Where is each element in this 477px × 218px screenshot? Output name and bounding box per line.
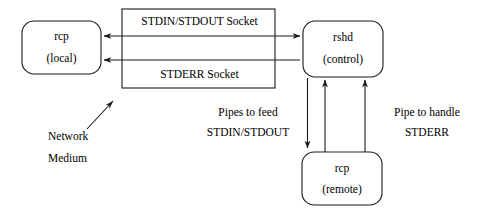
node-rshd-control: rshd (control) (303, 21, 383, 77)
node-rcp-remote: rcp (remote) (302, 152, 382, 205)
node-rcp-remote-line1: rcp (335, 162, 350, 175)
annotation-network-medium: Network Medium (48, 130, 88, 164)
annotation-pipes-feed-line2: STDIN/STDOUT (207, 126, 289, 138)
node-rshd-control-line2: (control) (323, 53, 363, 66)
annotation-pipe-stderr-line1: Pipe to handle (394, 106, 460, 119)
diagram-svg: STDIN/STDOUT Socket STDERR Socket rcp (l… (0, 0, 477, 218)
socket-box-top-label: STDIN/STDOUT Socket (141, 15, 258, 27)
node-rcp-remote-shape (302, 152, 382, 205)
annotation-pipes-feed: Pipes to feed STDIN/STDOUT (207, 106, 289, 138)
annotation-pipe-stderr: Pipe to handle STDERR (394, 106, 460, 138)
socket-box-bottom-label: STDERR Socket (160, 68, 239, 80)
node-rcp-local-line1: rcp (54, 30, 69, 43)
annotation-network-medium-line2: Medium (48, 152, 87, 164)
annotation-pipes-feed-line1: Pipes to feed (218, 106, 278, 119)
annotation-pipe-stderr-line2: STDERR (405, 126, 449, 138)
node-rcp-local-line2: (local) (46, 52, 76, 65)
node-rcp-local: rcp (local) (22, 21, 101, 74)
annotation-network-medium-line1: Network (48, 130, 88, 142)
node-rshd-control-line1: rshd (333, 31, 353, 43)
connector-network-pointer (87, 101, 113, 129)
node-rshd-control-shape (303, 21, 383, 77)
diagram-canvas: STDIN/STDOUT Socket STDERR Socket rcp (l… (0, 0, 477, 218)
node-rcp-remote-line2: (remote) (322, 183, 362, 196)
socket-box: STDIN/STDOUT Socket STDERR Socket (122, 9, 275, 88)
